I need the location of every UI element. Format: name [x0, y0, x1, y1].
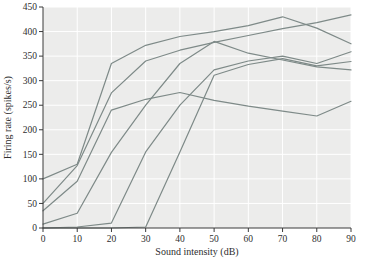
x-axis-title: Sound intensity (dB)	[155, 246, 238, 258]
x-tick-label: 50	[209, 234, 219, 244]
x-tick-label: 80	[312, 234, 322, 244]
x-tick-label: 40	[175, 234, 185, 244]
firing-rate-chart-figure: 0102030405060708090050100150200250300350…	[0, 0, 371, 270]
x-tick-label: 60	[244, 234, 254, 244]
y-tick-label: 50	[28, 199, 38, 209]
y-tick-label: 0	[32, 223, 37, 233]
y-axis-title: Firing rate (spikes/s)	[2, 76, 14, 159]
y-tick-label: 400	[23, 27, 38, 37]
x-tick-label: 90	[346, 234, 356, 244]
y-tick-label: 150	[23, 150, 38, 160]
plot-background	[43, 7, 351, 228]
y-tick-label: 450	[23, 2, 38, 12]
y-tick-label: 100	[23, 174, 38, 184]
x-tick-label: 30	[141, 234, 151, 244]
rate-level-chart: 0102030405060708090050100150200250300350…	[0, 0, 371, 270]
x-tick-label: 0	[41, 234, 46, 244]
y-tick-label: 350	[23, 51, 38, 61]
x-tick-label: 70	[278, 234, 288, 244]
y-tick-label: 300	[23, 76, 38, 86]
x-tick-label: 20	[107, 234, 117, 244]
y-tick-label: 200	[23, 125, 38, 135]
x-tick-label: 10	[72, 234, 82, 244]
y-tick-label: 250	[23, 100, 38, 110]
